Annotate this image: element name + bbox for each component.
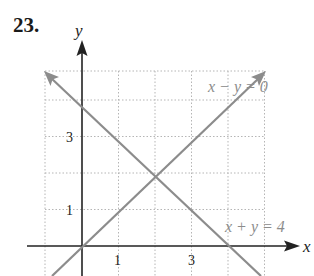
x-axis-label: x — [302, 237, 311, 256]
x-tick-3: 3 — [188, 253, 195, 268]
graph: x − y = 0 x + y = 4 y x 1 3 1 3 — [0, 0, 314, 276]
y-tick-3: 3 — [66, 130, 73, 145]
x-axis — [27, 241, 300, 252]
label-x-minus-y: x − y = 0 — [207, 78, 268, 96]
y-axis-label: y — [73, 21, 83, 40]
y-axis — [77, 40, 88, 276]
y-tick-1: 1 — [66, 203, 73, 218]
x-tick-1: 1 — [114, 253, 121, 268]
label-x-plus-y: x + y = 4 — [224, 218, 285, 236]
